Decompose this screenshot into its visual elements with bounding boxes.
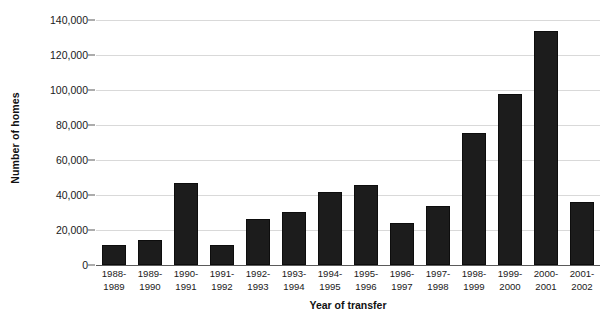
x-tick-label: 1992-1993 [240,268,276,296]
y-tick-label: 0 [16,259,88,271]
x-tick-label: 1999-2000 [492,268,528,296]
x-tick-label-line: 1994- [312,268,348,281]
x-tick-label: 2000-2001 [528,268,564,296]
y-tick-label: 120,000 [16,49,88,61]
bar [534,31,558,266]
axis-baseline [96,265,600,266]
x-tick-label-line: 2001- [564,268,600,281]
x-tick-label: 1996-1997 [384,268,420,296]
x-tick-label-line: 1992 [204,281,240,294]
bar [390,223,414,265]
x-tick-label-line: 2002 [564,281,600,294]
x-tick-label-line: 1990- [168,268,204,281]
x-tick-label: 1997-1998 [420,268,456,296]
plot-area [96,20,600,265]
y-tick-label: 100,000 [16,84,88,96]
bar [138,240,162,265]
bar-slot [240,20,276,265]
y-tick-label: 40,000 [16,189,88,201]
bar-slot [564,20,600,265]
x-tick-label: 1990-1991 [168,268,204,296]
x-tick-label-line: 2000 [492,281,528,294]
bar [174,183,198,265]
bar-slot [384,20,420,265]
x-tick-label-line: 1996 [348,281,384,294]
y-tick-label: 140,000 [16,14,88,26]
x-tick-label-line: 1999 [456,281,492,294]
x-tick-label: 2001-2002 [564,268,600,296]
x-axis-tick-labels: 1988-19891989-19901990-19911991-19921992… [96,268,600,296]
bar [246,219,270,265]
x-tick-label-line: 1990 [132,281,168,294]
x-tick-label: 1991-1992 [204,268,240,296]
bar-slot [168,20,204,265]
x-tick-label-line: 1991 [168,281,204,294]
x-tick-label: 1989-1990 [132,268,168,296]
y-tick-mark [88,55,95,56]
y-tick-label: 60,000 [16,154,88,166]
y-axis-tick-labels: 020,00040,00060,00080,000100,000120,0001… [14,20,88,265]
y-tick-mark [88,20,95,21]
x-tick-label-line: 1998- [456,268,492,281]
x-tick-label: 1993-1994 [276,268,312,296]
x-tick-label-line: 1991- [204,268,240,281]
x-tick-label: 1988-1989 [96,268,132,296]
x-tick-label-line: 2000- [528,268,564,281]
bar-slot [492,20,528,265]
x-tick-label: 1995-1996 [348,268,384,296]
y-tick-mark [88,265,95,266]
x-tick-label-line: 1993 [240,281,276,294]
bar-slot [276,20,312,265]
x-tick-label-line: 1989- [132,268,168,281]
bars-group [96,20,600,265]
bar [498,94,522,266]
y-tick-mark [88,195,95,196]
x-tick-label-line: 1993- [276,268,312,281]
y-tick-mark [88,90,95,91]
bar-slot [456,20,492,265]
bar [210,245,234,265]
y-tick-label: 20,000 [16,224,88,236]
x-tick-label-line: 2001 [528,281,564,294]
x-tick-label-line: 1997 [384,281,420,294]
bar-slot [96,20,132,265]
bar-slot [132,20,168,265]
x-tick-label-line: 1995 [312,281,348,294]
bar-chart-figure: Number of homes 020,00040,00060,00080,00… [0,0,608,322]
x-tick-label-line: 1989 [96,281,132,294]
bar [570,202,594,265]
y-tick-mark [88,160,95,161]
bar [426,206,450,265]
y-tick-mark [88,230,95,231]
x-tick-label: 1998-1999 [456,268,492,296]
x-tick-label-line: 1998 [420,281,456,294]
bar-slot [204,20,240,265]
x-tick-label: 1994-1995 [312,268,348,296]
x-tick-label-line: 1994 [276,281,312,294]
x-tick-label-line: 1997- [420,268,456,281]
bar [102,245,126,265]
x-tick-label-line: 1988- [96,268,132,281]
y-tick-mark [88,125,95,126]
bar [318,192,342,265]
bar-slot [348,20,384,265]
bar-slot [528,20,564,265]
x-axis-title: Year of transfer [96,299,600,311]
bar [282,212,306,265]
x-tick-label-line: 1995- [348,268,384,281]
y-tick-label: 80,000 [16,119,88,131]
x-tick-label-line: 1996- [384,268,420,281]
x-tick-label-line: 1992- [240,268,276,281]
bar-slot [420,20,456,265]
bar [354,185,378,265]
bar-slot [312,20,348,265]
x-tick-label-line: 1999- [492,268,528,281]
bar [462,133,486,265]
